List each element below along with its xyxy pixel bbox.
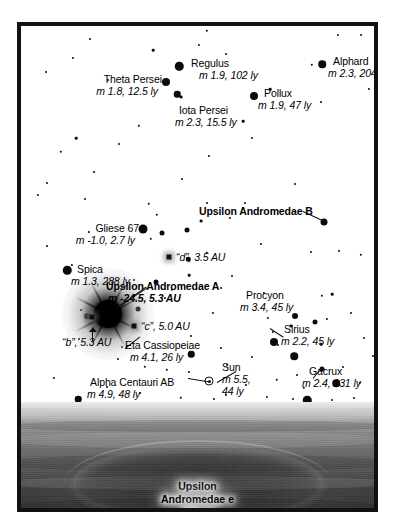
label-upsilon-andromedae-b: Upsilon Andromedae B [199,206,313,218]
star-dot [251,356,253,358]
star-dot [175,62,184,71]
star-dot [311,64,313,66]
label-regulus: Regulus m 1.9, 102 ly [191,58,258,82]
label-iota-persei: Iota Persei m 2.3, 15.5 ly [179,105,237,129]
star-dot [174,91,181,98]
star-dot [353,397,355,399]
star-dot [276,379,278,381]
star-dot [360,254,362,256]
star-dot [363,337,365,339]
planet-c-marker [132,324,137,329]
star-dot [152,49,155,52]
star-dot [37,194,39,196]
star-dot [260,243,262,245]
star-field: Regulus m 1.9, 102 ly Alphard m 2.3, 204… [21,26,374,402]
star-dot [360,34,362,36]
star-dot [188,274,191,277]
star-dot [156,214,158,216]
planet-surface: Upsilon Andromedae e 300 mi [21,402,374,508]
star-dot [84,198,86,200]
label-planet-d: “d”, 3.5 AU [176,252,225,264]
label-gliese-67: Gliese 67 m -1.0, 2.7 ly [21,223,139,247]
star-dot [294,183,296,185]
star-dot [188,371,190,373]
star-dot [72,57,74,59]
star-dot [60,151,62,153]
star-dot [277,344,279,346]
star-dot [75,137,78,140]
diagram-root: Regulus m 1.9, 102 ly Alphard m 2.3, 204… [0,0,396,531]
star-dot [244,202,246,204]
planet-b-marker [90,315,95,320]
label-planet-surface: Upsilon Andromedae e 300 mi [161,480,234,508]
star-dot [212,312,214,314]
star-dot [321,295,323,297]
star-dot [180,397,182,399]
star-dot [292,313,298,319]
star-dot [139,225,148,234]
star-dot [331,293,334,296]
star-dot [350,312,352,314]
star-dot [93,171,95,173]
star-dot [148,203,150,205]
label-alpha-centauri-ab: Alpha Centauri AB m 4.9, 48 ly [90,377,174,401]
star-dot [225,53,227,55]
star-dot [181,178,183,180]
label-planet-c: “c”, 5.0 AU [141,321,190,333]
star-dot [150,238,152,240]
label-sun: Sun m 5.5, 44 ly [222,362,251,397]
star-dot [266,396,268,398]
star-dot [267,317,269,319]
star-dot [368,88,370,90]
star-dot [160,231,165,236]
star-dot [292,398,294,400]
star-dot [206,202,208,204]
star-dot [296,374,298,376]
star-dot [372,355,374,357]
star-dot [338,250,340,252]
star-dot [46,182,48,184]
star-dot [220,347,222,349]
star-dot [118,143,120,145]
label-sirius: Sirius m 2.2, 45 ly [284,324,334,348]
label-alphard: Alphard m 2.3, 204 ly [333,56,374,80]
star-dot [250,92,258,100]
star-dot [318,60,326,68]
star-dot [162,78,170,86]
label-upsilon-andromedae-a: Upsilon Andromedae A m -24.5, 5.3 AU [106,281,219,305]
star-dot [206,30,208,32]
star-dot [242,120,245,123]
label-planet-b: “b”, 5.3 AU [62,337,111,349]
label-gacrux: Gacrux m 2.4, 131 ly [309,366,361,390]
star-dot [310,251,312,253]
star-dot [220,287,222,289]
star-dot [337,34,339,36]
label-procyon: Procyon m 3.4, 45 ly [246,290,293,314]
star-dot [89,38,91,40]
label-eta-cassiopeiae: Eta Cassiopeiae m 4.1, 26 ly [125,340,200,364]
star-dot [200,220,203,223]
star-dot [290,352,298,360]
label-theta-persei: Theta Persei m 1.8, 12.5 ly [21,74,162,98]
star-dot [326,318,328,320]
star-dot [138,125,140,127]
star-dot [45,71,47,73]
planet-b-arrowhead [89,327,97,332]
star-dot [198,44,200,46]
star-dot [185,228,190,233]
star-dot [331,399,333,401]
star-dot [231,275,233,277]
star-dot [213,398,215,400]
star-dot [208,155,210,157]
star-dot [320,101,322,103]
planet-d-marker [167,255,172,260]
star-dot [251,137,253,139]
sky-frame: Regulus m 1.9, 102 ly Alphard m 2.3, 204… [17,22,378,512]
label-pollux: Pollux m 1.9, 47 ly [264,88,311,112]
star-dot [270,338,278,346]
star-dot [190,335,192,337]
